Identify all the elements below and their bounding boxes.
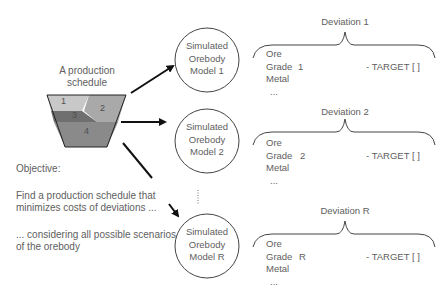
objective-heading: Objective: bbox=[16, 163, 60, 175]
schedule-title: A production schedule bbox=[37, 65, 137, 89]
deviation-2-title: Deviation 2 bbox=[285, 106, 405, 117]
objective-line2: minimizes costs of deviations ... bbox=[16, 202, 157, 214]
deviation-1-index: 1 bbox=[298, 61, 303, 72]
model-1-line2: Orebody bbox=[172, 53, 242, 66]
model-r-label: Simulated Orebody Model R bbox=[172, 226, 242, 264]
deviation-r-target: - TARGET [ ] bbox=[366, 251, 420, 262]
deviation-r-ore: Ore bbox=[266, 238, 292, 251]
model-1-label: Simulated Orebody Model 1 bbox=[172, 40, 242, 78]
model-1-line3: Model 1 bbox=[172, 65, 242, 78]
segment-2-label: 2 bbox=[100, 103, 105, 113]
deviation-2-index: 2 bbox=[300, 150, 305, 161]
segment-3-label: 3 bbox=[72, 110, 77, 120]
deviation-r-index: R bbox=[299, 251, 306, 262]
deviation-r-grade: Grade bbox=[266, 251, 292, 264]
deviation-2-items: Ore Grade Metal ... bbox=[266, 137, 292, 187]
model-r-line2: Orebody bbox=[172, 239, 242, 252]
arrow-to-model-r-line bbox=[123, 143, 152, 178]
production-schedule-shape bbox=[47, 95, 126, 147]
model-r-line1: Simulated bbox=[172, 226, 242, 239]
deviation-r-metal: Metal bbox=[266, 263, 292, 276]
deviation-2-grade: Grade bbox=[266, 150, 292, 163]
deviation-r-more: ... bbox=[266, 276, 292, 289]
objective-line4: of the orebody bbox=[16, 241, 80, 253]
model-2-line1: Simulated bbox=[172, 121, 242, 134]
objective-line3: ... considering all possible scenarios bbox=[16, 229, 176, 241]
deviation-1-items: Ore Grade Metal ... bbox=[266, 48, 292, 98]
arrow-to-model-r-head bbox=[169, 204, 178, 216]
segment-1 bbox=[47, 95, 89, 111]
deviation-2-target: - TARGET [ ] bbox=[366, 150, 420, 161]
deviation-2-metal: Metal bbox=[266, 162, 292, 175]
deviation-1-target: - TARGET [ ] bbox=[366, 61, 420, 72]
deviation-2-ore: Ore bbox=[266, 137, 292, 150]
deviation-1-ore: Ore bbox=[266, 48, 292, 61]
deviation-1-more: ... bbox=[266, 86, 292, 99]
model-2-line2: Orebody bbox=[172, 134, 242, 147]
deviation-r-items: Ore Grade Metal ... bbox=[266, 238, 292, 288]
objective-line1: Find a production schedule that bbox=[16, 190, 156, 202]
segment-4-label: 4 bbox=[84, 126, 89, 136]
arrow-to-model-1 bbox=[131, 66, 173, 93]
model-2-line3: Model 2 bbox=[172, 146, 242, 159]
model-2-label: Simulated Orebody Model 2 bbox=[172, 121, 242, 159]
schedule-title-line2: schedule bbox=[37, 77, 137, 89]
schedule-title-line1: A production bbox=[37, 65, 137, 77]
model-r-line3: Model R bbox=[172, 251, 242, 264]
model-1-line1: Simulated bbox=[172, 40, 242, 53]
deviation-1-grade: Grade bbox=[266, 61, 292, 74]
deviation-r-title: Deviation R bbox=[285, 205, 405, 216]
deviation-2-more: ... bbox=[266, 175, 292, 188]
deviation-1-metal: Metal bbox=[266, 73, 292, 86]
deviation-1-title: Deviation 1 bbox=[285, 16, 405, 27]
segment-1-label: 1 bbox=[61, 96, 66, 106]
